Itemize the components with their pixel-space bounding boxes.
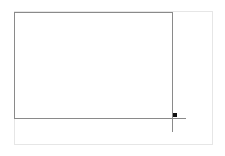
horizontal-guide-line: [14, 118, 186, 119]
drawing-canvas[interactable]: [0, 0, 225, 156]
selection-rectangle[interactable]: [14, 12, 173, 119]
resize-handle-icon[interactable]: [173, 113, 177, 117]
